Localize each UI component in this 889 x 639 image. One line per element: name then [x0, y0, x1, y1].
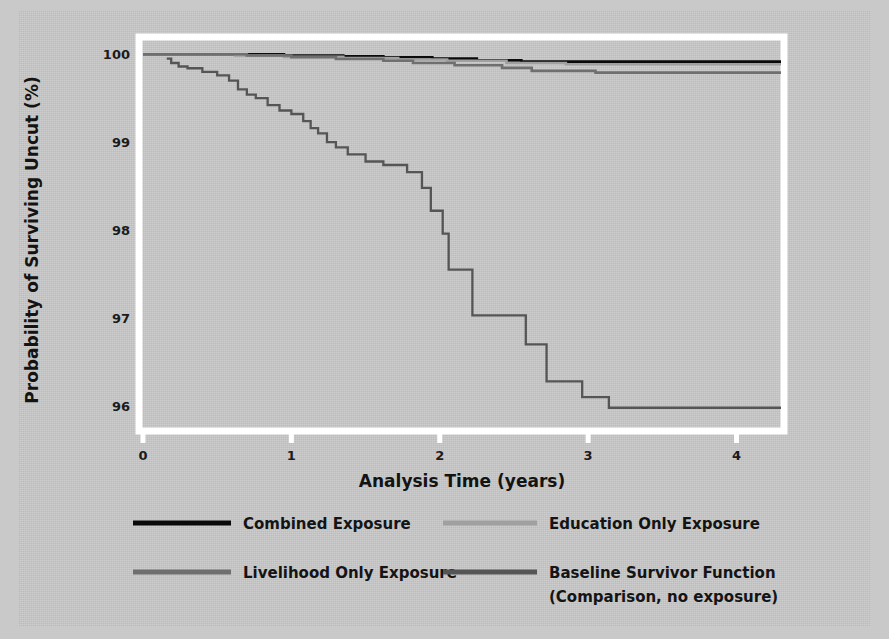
y-tick-label: 96: [112, 399, 130, 414]
y-axis-title: Probability of Surviving Uncut (%): [22, 76, 42, 403]
plot-area-border: [139, 37, 784, 431]
y-tick-label: 99: [112, 135, 130, 150]
y-tick-label: 97: [112, 311, 130, 326]
x-axis-ticks: 01234: [138, 431, 741, 463]
legend-label: Baseline Survivor Function: [549, 564, 776, 582]
legend-label: Education Only Exposure: [549, 515, 760, 533]
y-axis-ticks: 96979899100: [103, 47, 130, 414]
legend-sublabel: (Comparison, no exposure): [549, 588, 778, 606]
x-tick-label: 1: [287, 448, 296, 463]
x-tick-label: 3: [584, 448, 593, 463]
survival-chart: 01234 96979899100 Analysis Time (years) …: [0, 0, 889, 639]
chart-svg: 01234 96979899100 Analysis Time (years) …: [0, 0, 889, 639]
legend: Combined ExposureEducation Only Exposure…: [133, 515, 778, 606]
series-line-baseline-survivor-function-comparison-no-exposure: [167, 59, 781, 408]
y-tick-label: 98: [112, 223, 130, 238]
x-axis-title: Analysis Time (years): [359, 471, 565, 491]
y-tick-label: 100: [103, 47, 130, 62]
x-tick-label: 0: [138, 448, 147, 463]
legend-label: Livelihood Only Exposure: [243, 564, 457, 582]
series-layer: [143, 54, 781, 408]
x-tick-label: 4: [732, 448, 741, 463]
legend-label: Combined Exposure: [243, 515, 411, 533]
x-tick-label: 2: [435, 448, 444, 463]
